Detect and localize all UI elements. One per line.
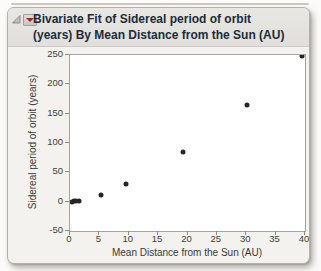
x-tick-mark <box>187 231 188 235</box>
disclosure-triangle-icon[interactable] <box>12 15 21 24</box>
report-title-line2: (years) By Mean Distance from the Sun (A… <box>33 27 305 43</box>
y-tick-mark <box>65 201 69 202</box>
data-point[interactable] <box>180 150 185 155</box>
x-axis-label: Mean Distance from the Sun (AU) <box>69 247 305 258</box>
x-tick-label: 40 <box>289 234 319 244</box>
y-tick-mark <box>65 113 69 114</box>
report-title-line1: Bivariate Fit of Sidereal period of orbi… <box>33 11 305 27</box>
data-point[interactable] <box>244 102 249 107</box>
y-tick-mark <box>65 171 69 172</box>
x-tick-mark <box>245 231 246 235</box>
y-tick-label: 250 <box>25 49 63 59</box>
y-tick-mark <box>65 54 69 55</box>
y-tick-label: 150 <box>25 108 63 118</box>
x-tick-label: 30 <box>230 234 260 244</box>
x-tick-label: 10 <box>113 234 143 244</box>
data-point[interactable] <box>300 54 305 58</box>
x-tick-mark <box>216 231 217 235</box>
data-point[interactable] <box>98 192 103 197</box>
x-tick-mark <box>157 231 158 235</box>
page-root: { "window": { "title_lines": [ "Bivariat… <box>0 0 321 271</box>
x-tick-label: 5 <box>83 234 113 244</box>
report-title-bar: Bivariate Fit of Sidereal period of orbi… <box>8 8 309 47</box>
y-tick-mark <box>65 83 69 84</box>
bivariate-report-window: Bivariate Fit of Sidereal period of orbi… <box>7 7 310 264</box>
scatter-plot-area[interactable] <box>69 54 306 232</box>
adjacent-panel-edge <box>11 3 309 5</box>
y-tick-label: 100 <box>25 137 63 147</box>
y-tick-label: 50 <box>25 166 63 176</box>
x-tick-label: 15 <box>142 234 172 244</box>
x-tick-mark <box>275 231 276 235</box>
x-tick-mark <box>304 231 305 235</box>
x-tick-label: 25 <box>201 234 231 244</box>
x-tick-mark <box>128 231 129 235</box>
x-tick-mark <box>98 231 99 235</box>
x-tick-label: 35 <box>260 234 290 244</box>
x-tick-label: 20 <box>172 234 202 244</box>
y-tick-label: 0 <box>25 196 63 206</box>
y-tick-label: 200 <box>25 78 63 88</box>
data-point[interactable] <box>76 198 81 203</box>
data-point[interactable] <box>124 182 129 187</box>
x-tick-mark <box>69 231 70 235</box>
x-tick-label: 0 <box>54 234 84 244</box>
y-tick-mark <box>65 142 69 143</box>
